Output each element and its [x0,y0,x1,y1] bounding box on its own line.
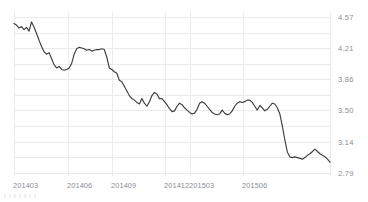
x-tick-label-1: 201406 [67,181,92,190]
y-tick-label-1: 4.21 [338,44,354,53]
footer-artifact [4,194,38,198]
line-chart: 4.574.213.863.503.142.79 201403201406201… [0,0,368,202]
x-tick-label-0: 201403 [13,181,38,190]
y-tick-label-3: 3.50 [338,106,354,115]
x-tick-label-5: 201506 [242,181,267,190]
y-tick-label-5: 2.79 [338,168,354,177]
x-tick-label-2: 201409 [111,181,136,190]
y-tick-label-2: 3.86 [338,75,354,84]
series-line [14,12,330,176]
x-tick-label-4: 201503 [189,181,214,190]
series-path [14,22,330,162]
x-tick-label-3: 201412 [164,181,189,190]
plot-area [14,12,330,176]
y-tick-label-0: 4.57 [338,12,354,21]
y-tick-label-4: 3.14 [338,137,354,146]
gridline-vertical-6 [330,12,331,176]
